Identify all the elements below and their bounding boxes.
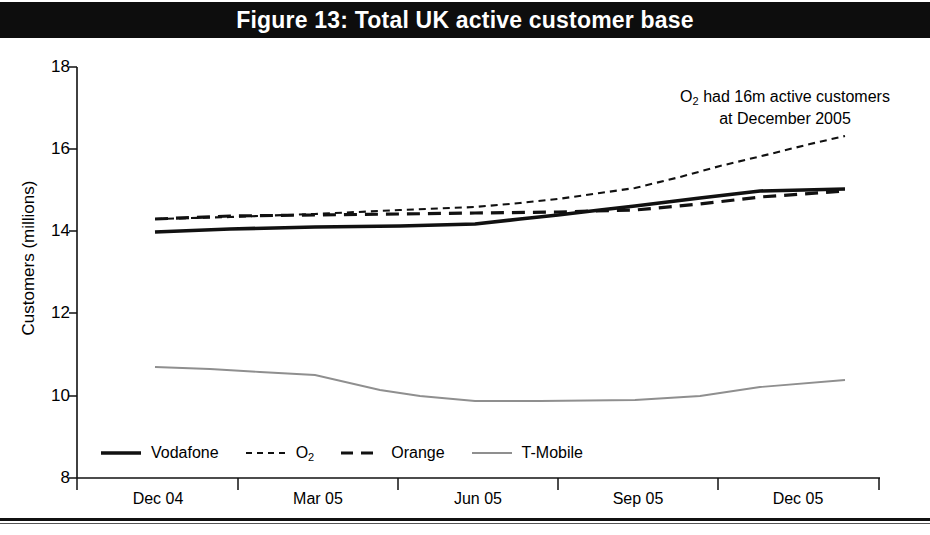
legend-item-orange[interactable]: Orange	[340, 444, 444, 462]
footer-rule	[0, 518, 930, 521]
legend-item-o2[interactable]: O2	[245, 444, 315, 462]
legend-label-o2: O2	[296, 444, 315, 462]
y-tick-marks	[69, 67, 77, 478]
footer-rule-secondary	[0, 523, 930, 524]
legend-item-vodafone[interactable]: Vodafone	[100, 444, 219, 462]
x-tick-marks	[77, 478, 879, 490]
page-title: Figure 13: Total UK active customer base	[236, 7, 694, 34]
legend-item-tmobile[interactable]: T-Mobile	[471, 444, 583, 462]
legend-label-orange: Orange	[391, 444, 444, 462]
series-line-o2	[155, 136, 845, 219]
figure-page: Figure 13: Total UK active customer base…	[0, 0, 930, 535]
series-line-tmobile	[155, 367, 845, 401]
legend-swatch-o2-dotted-fine-icon	[245, 447, 287, 459]
series-line-orange	[155, 191, 845, 219]
legend-label-tmobile: T-Mobile	[522, 444, 583, 462]
legend-swatch-tmobile-solid-thin-icon	[471, 447, 513, 459]
legend-swatch-orange-dashed-thick-icon	[340, 447, 382, 459]
legend-label-vodafone: Vodafone	[151, 444, 219, 462]
chart-legend: Vodafone O2 Orange T-Mobile	[100, 444, 583, 462]
chart-area: 18 16 14 12 10 8 Customers (millions) De…	[0, 38, 930, 520]
legend-swatch-vodafone-solid-thick-icon	[100, 447, 142, 459]
series-line-vodafone	[155, 189, 845, 232]
figure-title-bar: Figure 13: Total UK active customer base	[0, 2, 930, 38]
